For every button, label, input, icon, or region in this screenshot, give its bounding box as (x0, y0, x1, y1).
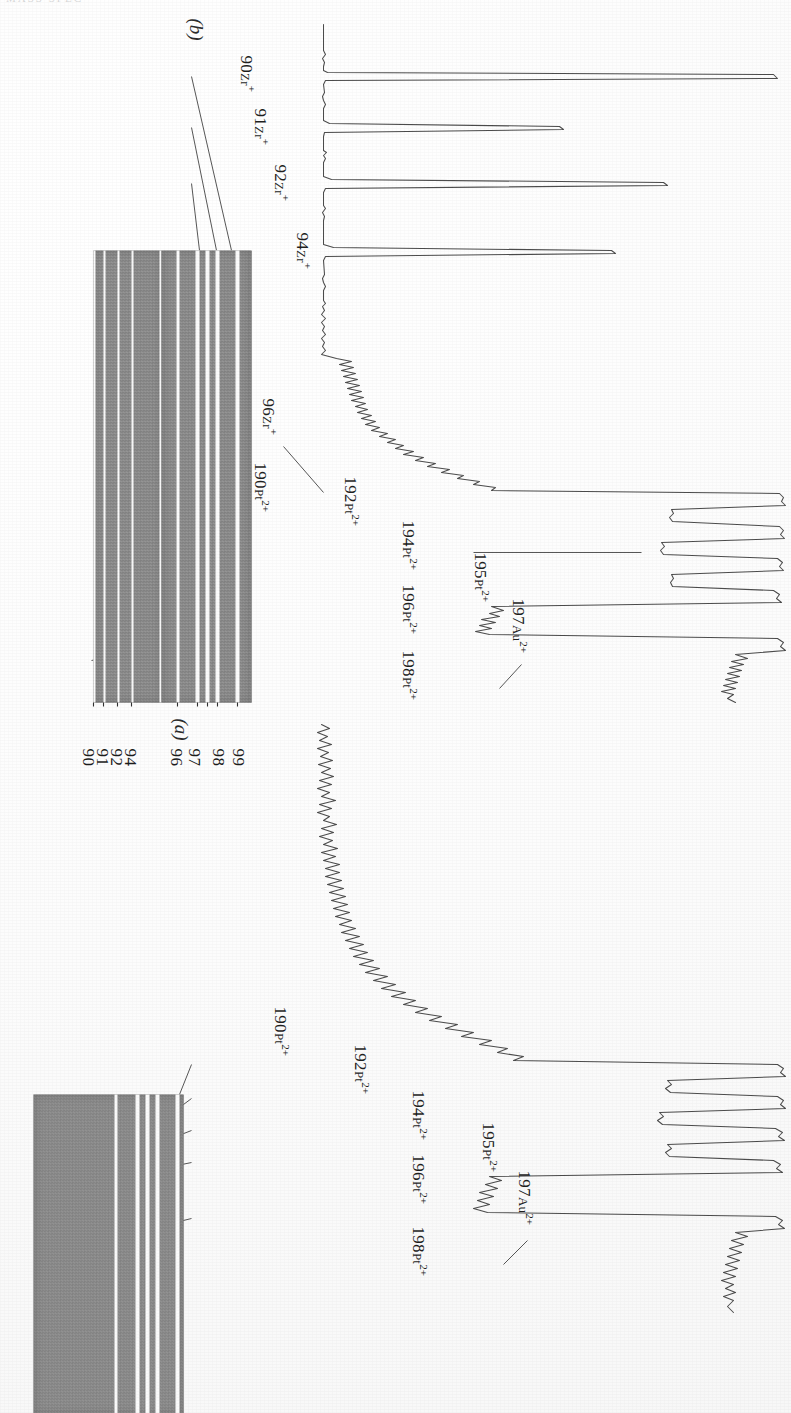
rotated-figure-canvas: (b) 90Zr+ 91 (0, 0, 791, 1413)
panel-b-mass-ticks (0, 0, 791, 706)
panel-a: (a) 190Pt2+ 192Pt2+ 194Pt2+ 195Pt2 (0, 706, 791, 1413)
panel-a-mass-ticks (0, 706, 791, 1413)
figure-page: MASS SPEC (b) (0, 0, 791, 1413)
panel-b: (b) 90Zr+ 91 (0, 0, 791, 706)
